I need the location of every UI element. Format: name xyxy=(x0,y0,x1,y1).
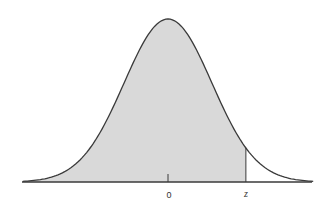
normal-distribution-chart xyxy=(0,0,329,216)
tick-label-z: z xyxy=(244,188,248,199)
tick-label-zero: 0 xyxy=(166,190,171,200)
shaded-area-left-of-z xyxy=(23,19,246,182)
